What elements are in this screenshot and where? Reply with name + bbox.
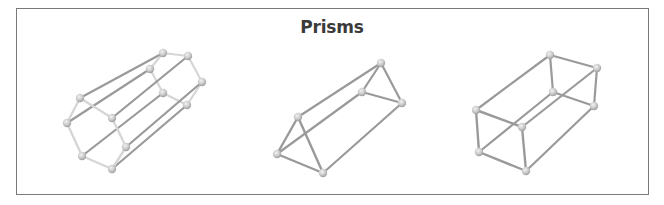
vertex-ball <box>122 143 130 151</box>
vertex-ball <box>398 99 406 107</box>
vertex-ball <box>76 94 84 102</box>
vertex-ball <box>546 51 554 59</box>
vertex-ball <box>549 88 557 96</box>
prisms-illustration <box>0 0 664 205</box>
vertex-ball <box>522 167 530 175</box>
vertex-ball <box>273 150 281 158</box>
vertex-ball <box>518 123 526 131</box>
vertex-ball <box>108 114 116 122</box>
vertex-ball <box>184 52 192 60</box>
vertex-ball <box>475 148 483 156</box>
rectangular-prism <box>472 51 601 175</box>
vertex-ball <box>159 89 167 97</box>
vertex-ball <box>593 64 601 72</box>
vertex-ball <box>146 65 154 73</box>
vertex-ball <box>183 101 191 109</box>
vertex-ball <box>377 59 385 67</box>
vertex-ball <box>294 113 302 121</box>
vertex-ball <box>63 119 71 127</box>
triangular-prism <box>273 59 406 177</box>
vertex-ball <box>198 78 206 86</box>
vertex-ball <box>108 165 116 173</box>
vertex-ball <box>319 169 327 177</box>
vertex-ball <box>159 49 167 57</box>
vertex-ball <box>358 88 366 96</box>
vertex-ball <box>78 152 86 160</box>
hexagonal-prism <box>63 49 206 173</box>
vertex-ball <box>590 102 598 110</box>
vertex-ball <box>472 106 480 114</box>
